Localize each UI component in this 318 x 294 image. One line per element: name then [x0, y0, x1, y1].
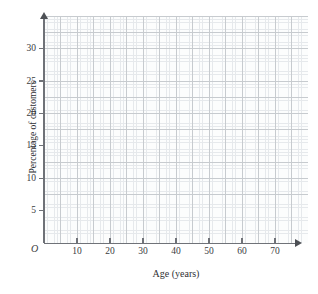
plot-area-grid	[44, 16, 308, 243]
x-axis-title: Age (years)	[44, 268, 308, 279]
x-tick-label: 40	[163, 246, 189, 256]
y-tick-mark	[39, 178, 44, 179]
y-tick-mark	[39, 145, 44, 146]
x-axis-arrow-icon	[295, 239, 302, 247]
origin-label: O	[31, 243, 38, 254]
y-tick-mark	[39, 80, 44, 81]
y-axis-line	[43, 18, 44, 243]
x-tick-mark	[241, 238, 242, 243]
y-axis-arrow-icon	[40, 12, 48, 19]
x-tick-label: 60	[229, 246, 255, 256]
x-tick-mark	[142, 238, 143, 243]
x-tick-mark	[175, 238, 176, 243]
y-tick-mark	[39, 210, 44, 211]
x-tick-label: 50	[196, 246, 222, 256]
y-tick-mark	[39, 113, 44, 114]
x-tick-label: 30	[130, 246, 156, 256]
x-tick-mark	[109, 238, 110, 243]
x-axis-line	[44, 243, 297, 244]
x-tick-mark	[274, 238, 275, 243]
x-tick-mark	[76, 238, 77, 243]
y-tick-mark	[39, 48, 44, 49]
blank-grid-chart: 10 20 30 40 50 60 70 5 10 15 20 25 30 O …	[0, 0, 318, 294]
x-tick-label: 20	[97, 246, 123, 256]
x-tick-label: 10	[64, 246, 90, 256]
x-tick-mark	[208, 238, 209, 243]
y-axis-title: Percentage of customers	[28, 27, 38, 227]
x-tick-label: 70	[262, 246, 288, 256]
